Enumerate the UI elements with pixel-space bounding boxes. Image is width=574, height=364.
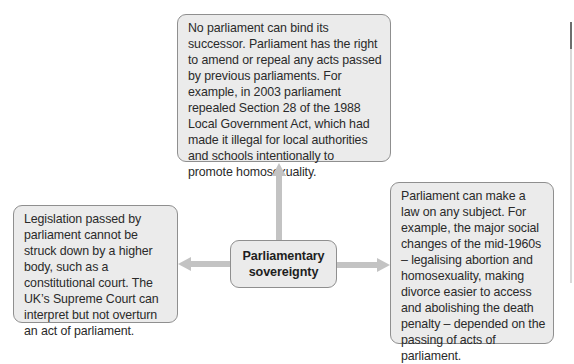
left-branch-text: Legislation passed by parliament cannot …	[24, 211, 171, 339]
page-edge-rule	[570, 22, 572, 283]
center-concept-box: Parliamentary sovereignty	[230, 240, 337, 288]
arrow-up-icon	[272, 163, 286, 176]
right-branch-box: Parliament can make a law on any subject…	[390, 182, 554, 344]
arrow-right-icon	[377, 258, 390, 272]
left-branch-box: Legislation passed by parliament cannot …	[13, 205, 178, 323]
top-branch-box: No parliament can bind its successor. Pa…	[177, 14, 391, 162]
arrow-left-icon	[178, 257, 191, 271]
arrow-up-shaft	[276, 174, 282, 240]
top-branch-text: No parliament can bind its successor. Pa…	[188, 20, 382, 180]
arrow-left-shaft	[190, 261, 231, 267]
center-concept-label: Parliamentary sovereignty	[242, 248, 324, 280]
arrow-right-shaft	[337, 262, 378, 268]
page-edge-marker	[570, 22, 572, 49]
right-branch-text: Parliament can make a law on any subject…	[401, 188, 547, 364]
